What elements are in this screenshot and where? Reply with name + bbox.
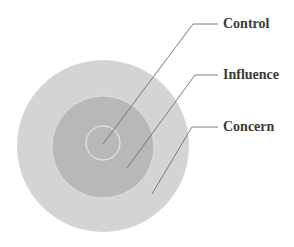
label-concern: Concern xyxy=(223,120,274,134)
circle-of-control xyxy=(86,126,120,160)
label-control: Control xyxy=(223,17,269,31)
label-influence: Influence xyxy=(223,68,279,82)
